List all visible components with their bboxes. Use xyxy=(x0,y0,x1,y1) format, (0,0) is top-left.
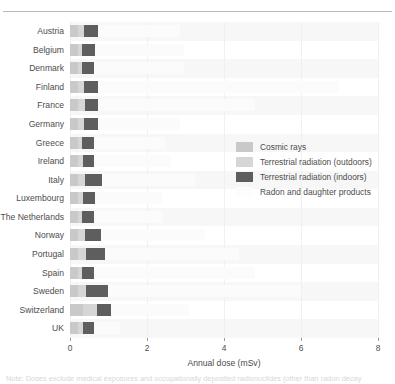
category-label: Norway xyxy=(0,226,70,245)
bar-row: Austria xyxy=(70,22,378,41)
bar-segment xyxy=(84,118,98,130)
bar-segment xyxy=(111,304,190,316)
axis-tick-label: 0 xyxy=(68,343,73,353)
legend-swatch xyxy=(236,172,253,182)
axis-tick-label: 6 xyxy=(299,343,304,353)
legend-item: Terrestrial radiation (indoors) xyxy=(236,169,372,184)
bar-segment xyxy=(70,99,78,111)
chart-legend: Cosmic raysTerrestrial radiation (outdoo… xyxy=(236,139,372,199)
axis-tick-label: 2 xyxy=(145,343,150,353)
stacked-bar xyxy=(70,118,180,130)
stacked-bar xyxy=(70,285,301,297)
legend-item: Radon and daughter products xyxy=(236,184,372,199)
axis-tick-label: 8 xyxy=(376,343,381,353)
bar-segment xyxy=(70,192,78,204)
bar-segment xyxy=(82,62,94,74)
bar-segment xyxy=(70,137,78,149)
bar-segment xyxy=(70,25,78,37)
bar-row: The Netherlands xyxy=(70,208,378,227)
bar-segment xyxy=(86,285,108,297)
bar-row: Belgium xyxy=(70,41,378,60)
stacked-bar xyxy=(70,174,195,186)
stacked-bar xyxy=(70,62,184,74)
axis-tick-label: 4 xyxy=(222,343,227,353)
stacked-bar xyxy=(70,229,205,241)
bar-segment xyxy=(82,137,94,149)
stacked-bar xyxy=(70,267,255,279)
bar-segment xyxy=(95,44,184,56)
bar-segment xyxy=(70,304,83,316)
axis-tick xyxy=(224,338,225,341)
category-label: Belgium xyxy=(0,41,70,60)
bar-row: UK xyxy=(70,319,378,338)
bar-segment xyxy=(94,211,163,223)
bar-segment xyxy=(70,155,78,167)
bar-segment xyxy=(82,44,94,56)
bar-segment xyxy=(78,285,86,297)
legend-swatch xyxy=(236,187,253,197)
axis-tick xyxy=(301,338,302,341)
bar-segment xyxy=(85,229,100,241)
stacked-bar xyxy=(70,44,184,56)
category-label: Spain xyxy=(0,264,70,283)
category-label: Austria xyxy=(0,22,70,41)
category-label: Portugal xyxy=(0,245,70,264)
bar-segment xyxy=(78,229,85,241)
category-label: The Netherlands xyxy=(0,208,70,227)
bar-segment xyxy=(85,174,102,186)
plot-top-rule xyxy=(3,11,392,12)
stacked-bar xyxy=(70,99,255,111)
bar-segment xyxy=(84,25,98,37)
legend-label: Cosmic rays xyxy=(260,142,306,152)
legend-item: Cosmic rays xyxy=(236,139,372,154)
legend-swatch xyxy=(236,157,253,167)
category-label: Italy xyxy=(0,171,70,190)
axis-tick xyxy=(147,338,148,341)
bar-segment xyxy=(94,322,120,334)
bar-segment xyxy=(83,322,94,334)
bar-row: Portugal xyxy=(70,245,378,264)
bar-row: France xyxy=(70,96,378,115)
bar-segment xyxy=(70,81,78,93)
legend-label: Radon and daughter products xyxy=(260,187,371,197)
bar-segment xyxy=(83,304,96,316)
bar-segment xyxy=(70,285,78,297)
bar-row: Sweden xyxy=(70,282,378,301)
bar-segment xyxy=(70,62,78,74)
x-axis: 02468 xyxy=(70,338,378,339)
legend-label: Terrestrial radiation (indoors) xyxy=(260,172,367,182)
category-label: Luxembourg xyxy=(0,189,70,208)
legend-swatch xyxy=(236,142,253,152)
bar-segment xyxy=(82,211,94,223)
bar-segment xyxy=(70,248,78,260)
stacked-bar xyxy=(70,192,162,204)
bar-segment xyxy=(98,81,337,93)
x-axis-title: Annual dose (mSv) xyxy=(70,358,378,368)
bar-segment xyxy=(94,137,166,149)
radiation-dose-bar-chart: AustriaBelgiumDenmarkFinlandFranceGerman… xyxy=(0,0,395,384)
bar-segment xyxy=(83,155,94,167)
bar-row: Germany xyxy=(70,115,378,134)
bar-segment xyxy=(105,248,239,260)
bar-segment xyxy=(86,248,105,260)
bar-segment xyxy=(82,267,94,279)
axis-tick xyxy=(378,338,379,341)
bar-segment xyxy=(70,211,78,223)
stacked-bar xyxy=(70,25,180,37)
bar-segment xyxy=(108,285,301,297)
legend-item: Terrestrial radiation (outdoors) xyxy=(236,154,372,169)
bar-row: Spain xyxy=(70,264,378,283)
category-label: France xyxy=(0,96,70,115)
bar-segment xyxy=(70,267,78,279)
bar-segment xyxy=(101,229,205,241)
stacked-bar xyxy=(70,248,239,260)
category-label: Switzerland xyxy=(0,301,70,320)
gridline xyxy=(378,22,379,338)
category-label: Finland xyxy=(0,78,70,97)
bar-segment xyxy=(70,229,78,241)
category-label: Denmark xyxy=(0,59,70,78)
bar-segment xyxy=(78,248,86,260)
chart-footnote: Note: Doses exclude medical exposures an… xyxy=(6,374,392,383)
bar-segment xyxy=(94,155,171,167)
legend-label: Terrestrial radiation (outdoors) xyxy=(260,157,372,167)
